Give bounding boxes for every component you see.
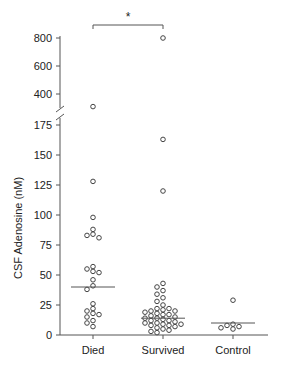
data-point — [161, 303, 166, 308]
y-tick-label: 75 — [40, 239, 52, 251]
data-point — [231, 298, 236, 303]
data-point — [85, 267, 90, 272]
data-point — [91, 318, 96, 323]
data-point — [167, 328, 172, 333]
data-point — [167, 312, 172, 317]
data-point — [155, 326, 160, 331]
data-point — [85, 321, 90, 326]
data-point — [91, 264, 96, 269]
data-point — [91, 306, 96, 311]
data-point — [173, 320, 178, 325]
data-point — [149, 323, 154, 328]
data-point — [179, 322, 184, 327]
y-tick-label: 400 — [34, 88, 52, 100]
data-point — [161, 288, 166, 293]
y-tick-label: 600 — [34, 60, 52, 72]
y-tick-label: 150 — [34, 149, 52, 161]
data-point — [155, 285, 160, 290]
data-point — [155, 292, 160, 297]
data-point — [149, 318, 154, 323]
data-point — [91, 324, 96, 329]
data-point — [85, 309, 90, 314]
data-point — [219, 326, 224, 331]
data-point — [91, 227, 96, 232]
y-tick-label: 0 — [46, 329, 52, 341]
y-tick-label: 100 — [34, 209, 52, 221]
data-point — [149, 314, 154, 319]
y-tick-label: 175 — [34, 119, 52, 131]
data-point — [237, 324, 242, 329]
data-point — [161, 36, 166, 41]
data-point — [97, 312, 102, 317]
y-tick-label: 125 — [34, 179, 52, 191]
data-point — [161, 327, 166, 332]
data-point — [155, 299, 160, 304]
data-point — [91, 302, 96, 307]
x-category-label: Died — [82, 344, 105, 356]
data-point — [91, 269, 96, 274]
y-axis-label: CSF Adenosine (nM) — [12, 177, 24, 279]
y-tick-label: 50 — [40, 269, 52, 281]
data-point — [91, 215, 96, 220]
axes — [56, 36, 268, 339]
data-point — [91, 232, 96, 237]
data-point — [155, 330, 160, 335]
data-point — [143, 310, 148, 315]
data-point — [167, 306, 172, 311]
data-point — [161, 189, 166, 194]
significance-bracket: * — [93, 10, 163, 29]
y-axis-ticks: 0255075100125150175400600800 — [34, 32, 60, 341]
data-point — [231, 327, 236, 332]
data-point — [167, 318, 172, 323]
data-point — [85, 315, 90, 320]
data-point — [91, 104, 96, 109]
data-point — [155, 306, 160, 311]
data-point — [161, 312, 166, 317]
data-point — [143, 321, 148, 326]
x-category-label: Control — [215, 344, 250, 356]
data-point — [155, 321, 160, 326]
x-axis-categories: DiedSurvivedControl — [82, 344, 251, 356]
data-point — [173, 324, 178, 329]
dot-plot-chart: 0255075100125150175400600800 DiedSurvive… — [0, 0, 281, 370]
data-point — [161, 137, 166, 142]
data-point — [225, 323, 230, 328]
data-point — [85, 287, 90, 292]
data-point — [85, 233, 90, 238]
y-tick-label: 25 — [40, 299, 52, 311]
significance-star: * — [126, 10, 131, 24]
data-point — [97, 270, 102, 275]
data-point — [149, 329, 154, 334]
data-point — [173, 309, 178, 314]
data-point — [161, 308, 166, 313]
y-tick-label: 800 — [34, 32, 52, 44]
data-point — [161, 296, 166, 301]
data-point — [149, 309, 154, 314]
data-point — [161, 281, 166, 286]
data-point — [155, 311, 160, 316]
data-point — [97, 236, 102, 241]
data-points — [85, 36, 242, 335]
x-category-label: Survived — [142, 344, 185, 356]
data-point — [91, 311, 96, 316]
data-point — [161, 322, 166, 327]
data-point — [167, 323, 172, 328]
data-point — [91, 179, 96, 184]
data-point — [91, 278, 96, 283]
